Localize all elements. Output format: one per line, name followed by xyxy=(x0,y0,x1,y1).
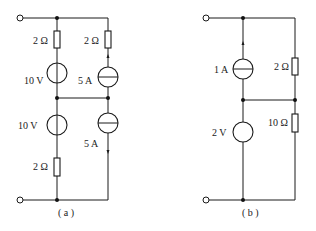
resistor-a-top-left xyxy=(54,31,60,48)
label-v-top: 10 V xyxy=(24,75,44,86)
resistor-a-bottom xyxy=(54,158,60,176)
terminal-bottom xyxy=(17,197,23,203)
terminal-top xyxy=(17,15,23,21)
label-i-source: 1 A xyxy=(214,64,229,75)
label-r-top-right: 2 Ω xyxy=(84,35,99,46)
resistor-a-top-right xyxy=(105,31,111,48)
circuit-b: 1 A 2 Ω 2 V 10 Ω ( b ) xyxy=(203,15,298,219)
voltage-source-b xyxy=(233,122,253,142)
current-arrow-down-icon xyxy=(107,150,110,154)
junction-dot xyxy=(55,198,59,202)
terminal-bottom xyxy=(203,197,209,203)
junction-dot xyxy=(55,96,59,100)
junction-dot xyxy=(241,16,245,20)
junction-dot xyxy=(241,198,245,202)
label-r-bottom: 2 Ω xyxy=(33,161,48,172)
terminal-top xyxy=(203,15,209,21)
caption-a: ( a ) xyxy=(58,207,74,219)
current-arrow-up-icon xyxy=(242,41,245,45)
caption-b: ( b ) xyxy=(242,207,259,219)
junction-dot xyxy=(55,16,59,20)
junction-dot xyxy=(241,98,245,102)
label-v-source: 2 V xyxy=(212,127,227,138)
label-i-top: 5 A xyxy=(78,75,93,86)
resistor-b-top xyxy=(292,58,298,75)
junction-dot xyxy=(106,96,110,100)
circuit-figure: 2 Ω 10 V 2 Ω 5 A 10 V 5 A 2 Ω ( a ) xyxy=(0,0,316,231)
junction-dot xyxy=(293,98,297,102)
label-r-top-left: 2 Ω xyxy=(33,35,48,46)
current-arrow-up-icon xyxy=(107,54,110,58)
label-v-bottom: 10 V xyxy=(18,120,38,131)
resistor-b-bottom xyxy=(292,114,298,132)
label-r-bottom: 10 Ω xyxy=(268,117,288,128)
circuit-a: 2 Ω 10 V 2 Ω 5 A 10 V 5 A 2 Ω ( a ) xyxy=(17,15,118,219)
label-i-bottom: 5 A xyxy=(84,138,99,149)
label-r-top: 2 Ω xyxy=(274,61,289,72)
